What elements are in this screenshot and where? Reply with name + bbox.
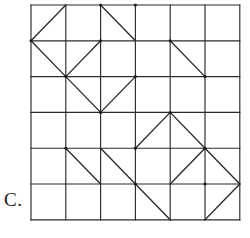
- vertex-dot: [30, 39, 33, 42]
- diagonal-slash: [66, 41, 101, 77]
- vertex-dot: [134, 4, 137, 7]
- vertex-dot: [99, 4, 102, 7]
- diagonal-slash: [101, 77, 136, 113]
- vertex-dot: [134, 147, 137, 150]
- grid-lines-group: [31, 5, 240, 220]
- diagonal-backslash: [135, 184, 170, 220]
- diagonal-slash: [135, 112, 170, 148]
- vertex-dot: [204, 147, 207, 150]
- vertex-dot: [204, 75, 207, 78]
- grid-diagram-svg: [0, 0, 250, 238]
- diagonal-backslash: [170, 41, 205, 77]
- diagonal-backslash: [66, 148, 101, 184]
- figure-label: C.: [4, 190, 22, 209]
- diagonal-backslash: [66, 77, 101, 113]
- diagonal-backslash: [101, 5, 136, 41]
- vertex-dot: [204, 183, 207, 186]
- diagonal-slash: [31, 5, 66, 41]
- diagonal-backslash: [205, 148, 240, 184]
- vertex-dot: [134, 183, 137, 186]
- diagonal-backslash: [170, 112, 205, 148]
- vertex-dot: [99, 39, 102, 42]
- diagonal-slash: [170, 148, 205, 184]
- diagonal-slash: [205, 184, 240, 220]
- vertex-dot: [169, 111, 172, 114]
- vertex-dot: [64, 75, 67, 78]
- diagonal-backslash: [31, 41, 66, 77]
- vertex-dot: [134, 75, 137, 78]
- vertex-dot: [64, 147, 67, 150]
- puzzle-figure: [0, 0, 250, 238]
- diagonal-backslash: [101, 148, 136, 184]
- vertex-dot: [169, 39, 172, 42]
- vertex-dot: [99, 111, 102, 114]
